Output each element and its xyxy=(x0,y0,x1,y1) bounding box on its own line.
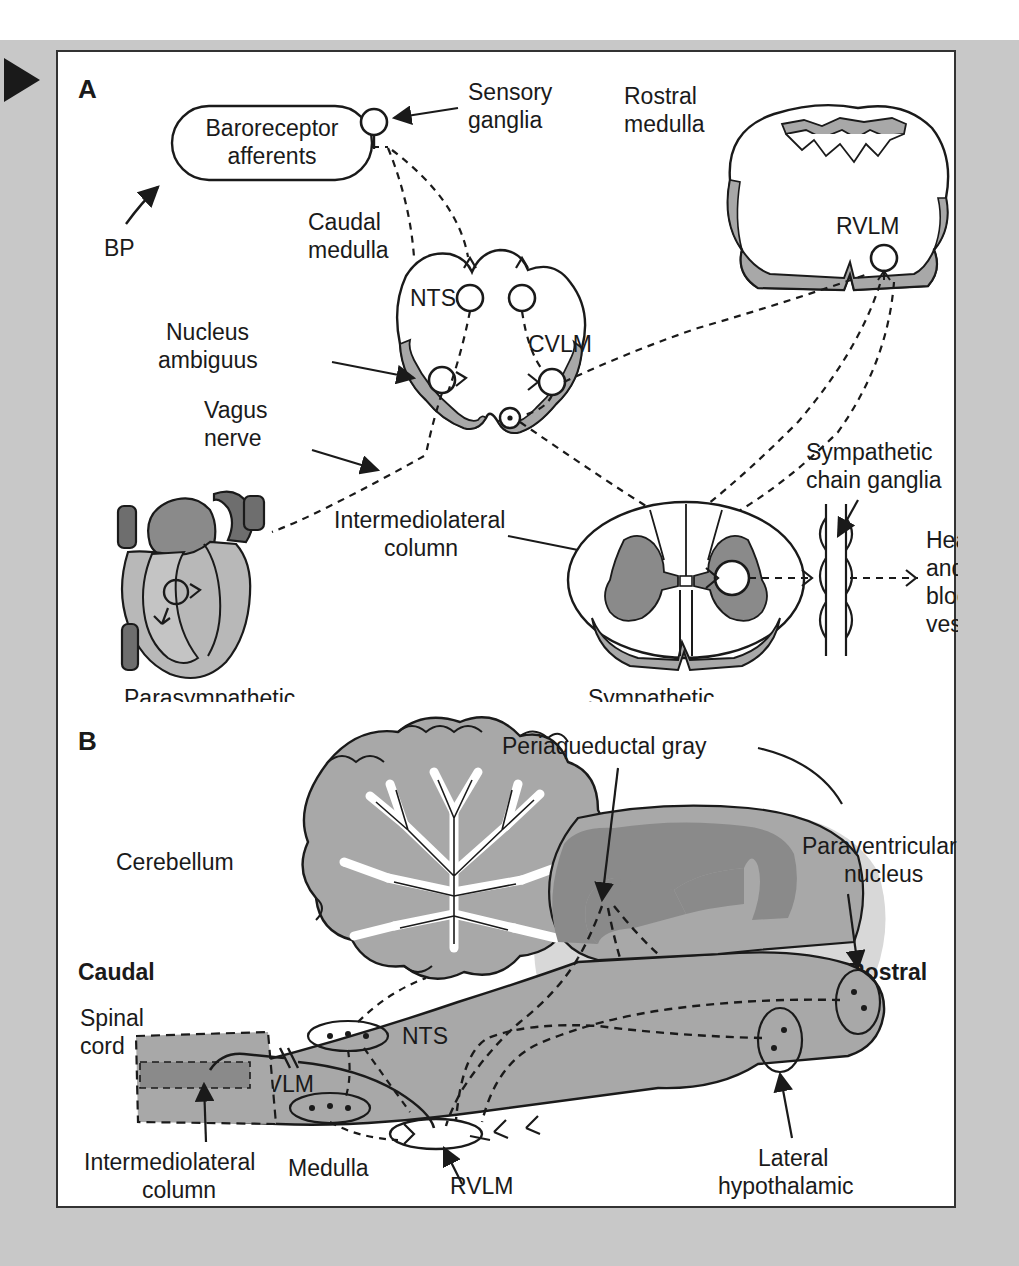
panel-a-letter: A xyxy=(78,74,97,104)
caudal-label: Caudal xyxy=(78,959,155,985)
rvlm-neuron-soma xyxy=(871,245,897,271)
heart-vessels-label-line1: Heart xyxy=(926,527,958,553)
spinal-cord-label-line1: Spinal xyxy=(80,1005,144,1031)
panel-a-figure: A Baroreceptor afferents BP Sensory gang… xyxy=(58,52,958,702)
panel-b-letter: B xyxy=(78,726,97,756)
page-top-white-band xyxy=(0,0,1019,40)
cerebellum-label: Cerebellum xyxy=(116,849,234,875)
bulbospinal-neuron-dot xyxy=(507,415,512,420)
bp-arrow xyxy=(126,187,158,224)
descending-terminal-2 xyxy=(526,1116,540,1134)
nts-neuron-soma xyxy=(457,285,483,311)
afferent-to-nts xyxy=(388,148,414,257)
sympathetic-chain-leader xyxy=(838,500,858,536)
vagus-nerve-leader xyxy=(312,450,378,470)
brainstem-body xyxy=(178,952,884,1124)
vagus-nerve-label-line2: nerve xyxy=(204,425,262,451)
lateral-hypothalamic-label-line2: hypothalamic xyxy=(718,1173,854,1199)
rostral-medulla-section xyxy=(728,105,948,290)
intermediolateral-column-bar xyxy=(140,1062,250,1088)
sensory-ganglia-label-line2: ganglia xyxy=(468,107,542,133)
rostral-medulla-label-line1: Rostral xyxy=(624,83,697,109)
rvlm-outline-b xyxy=(390,1119,482,1149)
rostral-medulla-label-line2: medulla xyxy=(624,111,705,137)
lha-cell-2 xyxy=(771,1045,777,1051)
nts-label-a: NTS xyxy=(410,285,456,311)
lateral-hypothalamic-leader xyxy=(780,1074,792,1138)
descending-terminal-1 xyxy=(494,1120,508,1138)
lateral-hypothalamic-label-line1: Lateral xyxy=(758,1145,828,1171)
sensory-ganglion-soma xyxy=(361,109,387,135)
paraventricular-label-line2: nucleus xyxy=(844,861,923,887)
nts-neuron-soma-2 xyxy=(509,285,535,311)
pvn-cell-1 xyxy=(851,989,857,995)
cvlm-to-rvlm-pathway xyxy=(564,274,868,382)
iml-label-a-line1: Intermediolateral xyxy=(334,507,505,533)
rvlm-input-marker xyxy=(404,1124,414,1144)
rvlm-label-a: RVLM xyxy=(836,213,900,239)
heart-inferior-vessel xyxy=(122,624,138,670)
bp-label: BP xyxy=(104,235,135,261)
heart-vessels-label-line3: blood xyxy=(926,583,958,609)
afferent-to-second xyxy=(392,150,468,257)
heart-illustration xyxy=(118,492,264,678)
nts-cell-3 xyxy=(363,1033,369,1039)
lha-cell-1 xyxy=(781,1027,787,1033)
nts-cell-1 xyxy=(327,1033,333,1039)
nucleus-ambiguus-label-line2: ambiguus xyxy=(158,347,258,373)
iml-label-b-line2: column xyxy=(142,1177,216,1203)
periaqueductal-gray-label: Periaqueductal gray xyxy=(502,733,707,759)
iml-label-b-line1: Intermediolateral xyxy=(84,1149,255,1175)
heart-vena-cava xyxy=(118,506,136,548)
cvlm-label-a: CVLM xyxy=(528,331,592,357)
baroreceptor-label-line2: afferents xyxy=(227,143,316,169)
panel-b-figure: B xyxy=(58,692,958,1212)
sympathetic-chain xyxy=(820,504,852,656)
heart-vessels-label-line4: vessels xyxy=(926,611,958,637)
iml-label-a-line2: column xyxy=(384,535,458,561)
nucleus-ambiguus-leader xyxy=(332,362,414,378)
paraventricular-label-line1: Paraventricular xyxy=(802,833,957,859)
triangle-pointer-icon xyxy=(4,58,40,102)
nts-label-b: NTS xyxy=(402,1023,448,1049)
sympathetic-chain-label-line2: chain ganglia xyxy=(806,467,942,493)
brainstem-outline-leader xyxy=(758,748,842,804)
cvlm-cell-1 xyxy=(309,1105,315,1111)
baroreceptor-label-line1: Baroreceptor xyxy=(206,115,339,141)
medulla-label: Medulla xyxy=(288,1155,369,1181)
cvlm-cell-3 xyxy=(345,1105,351,1111)
heart-vessels-label-line2: and xyxy=(926,555,958,581)
caudal-medulla-label-line1: Caudal xyxy=(308,209,381,235)
cvlm-cell-2 xyxy=(327,1103,333,1109)
vagus-nerve-label-line1: Vagus xyxy=(204,397,268,423)
cvlm-neuron-soma xyxy=(539,369,565,395)
spinal-cord-label-line2: cord xyxy=(80,1033,125,1059)
sensory-ganglia-label-line1: Sensory xyxy=(468,79,553,105)
sympathetic-chain-label-line1: Sympathetic xyxy=(806,439,933,465)
figure-page: A Baroreceptor afferents BP Sensory gang… xyxy=(0,0,1019,1266)
nucleus-ambiguus-label-line1: Nucleus xyxy=(166,319,249,345)
figure-panel: A Baroreceptor afferents BP Sensory gang… xyxy=(56,50,956,1208)
spinal-cord-section xyxy=(568,502,804,670)
iml-neuron-soma xyxy=(715,561,749,595)
pvn-cell-2 xyxy=(861,1005,867,1011)
heart-pulmonary-artery xyxy=(244,496,264,530)
caudal-medulla-label-line2: medulla xyxy=(308,237,389,263)
sensory-ganglia-leader xyxy=(394,108,458,118)
nts-cell-2 xyxy=(345,1031,351,1037)
